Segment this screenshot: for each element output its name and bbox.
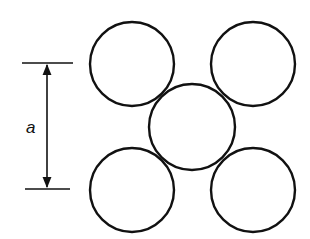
circle-top-right [211,22,295,106]
circle-top-left [90,22,174,106]
circle-bottom-left [90,148,174,232]
circles-group [90,22,295,232]
circle-bottom-right [211,148,295,232]
circle-center [149,84,235,170]
dimension-indicator: a [22,63,73,189]
dimension-label: a [26,118,35,137]
packing-diagram: a [0,0,310,239]
